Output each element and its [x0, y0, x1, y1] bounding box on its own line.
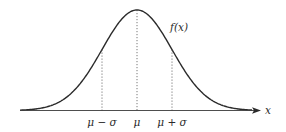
tick-label-mu-minus-sigma: μ − σ [87, 116, 117, 128]
axis-label-x: x [265, 104, 271, 116]
tick-label-mu-plus-sigma: μ + σ [157, 116, 187, 128]
bell-curve [20, 10, 252, 110]
curve-label-fx: f(x) [169, 21, 188, 33]
normal-distribution-diagram: x f(x) μ − σ μ μ + σ [0, 0, 286, 132]
tick-label-mu: μ [134, 116, 141, 128]
